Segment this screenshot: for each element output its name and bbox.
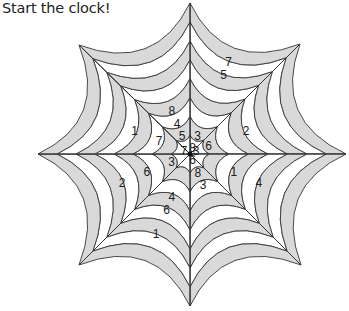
web-number-label: 6	[163, 203, 170, 217]
web-number-label: 4	[255, 176, 262, 190]
web-number-label: 6	[144, 165, 151, 179]
web-number-label: 1	[153, 227, 160, 241]
web-number-label: 6	[205, 139, 212, 153]
web-number-label: 3	[168, 155, 175, 169]
web-number-label: 5	[220, 68, 227, 82]
web-number-label: 5	[179, 129, 186, 143]
web-center-dot	[188, 152, 193, 157]
web-number-label: 7	[180, 144, 187, 158]
web-number-label: 2	[119, 176, 126, 190]
web-number-label: 2	[243, 124, 250, 138]
web-number-label: 1	[131, 124, 138, 138]
web-number-label: 7	[156, 134, 163, 148]
web-number-label: 1	[230, 165, 237, 179]
web-number-label: 3	[200, 178, 207, 192]
spider-web-puzzle: 845383676837175214326461	[0, 0, 349, 311]
